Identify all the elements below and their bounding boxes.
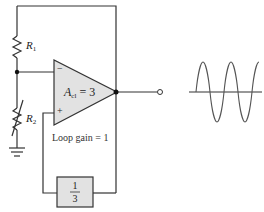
minus-input-label: − — [57, 64, 63, 74]
r2-sub: 2 — [33, 118, 37, 126]
junction-dot-output — [114, 90, 119, 95]
junction-dot-left — [15, 70, 19, 74]
resistor-r1-icon — [13, 36, 21, 58]
r1-name: R — [26, 39, 33, 51]
plus-input-label: + — [57, 106, 63, 116]
feedback-denominator: 3 — [69, 194, 81, 204]
r2-label: R2 — [26, 113, 36, 126]
r1-sub: 1 — [33, 45, 37, 53]
feedback-numerator: 1 — [69, 181, 81, 191]
circuit-svg — [0, 0, 264, 212]
gain-sub: cl — [71, 92, 76, 100]
output-terminal-icon — [158, 90, 163, 95]
opamp-gain-label: Acl = 3 — [64, 86, 95, 100]
gain-value: = 3 — [79, 85, 95, 99]
r1-label: R1 — [26, 40, 36, 53]
oscillator-diagram: R1 R2 − + Acl = 3 Loop gain = 1 1 3 — [0, 0, 264, 212]
r2-name: R — [26, 112, 33, 124]
loop-gain-label: Loop gain = 1 — [52, 133, 108, 143]
